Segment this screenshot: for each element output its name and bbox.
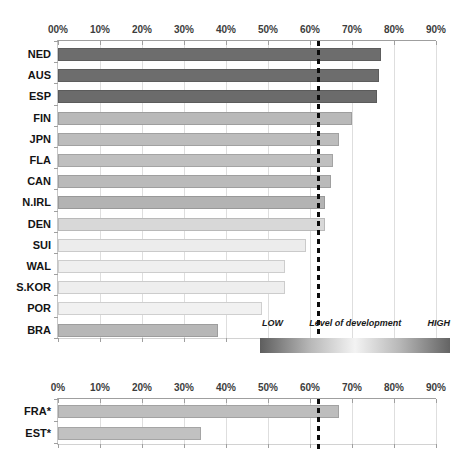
average-reference-line [317,399,320,449]
x-axis-tick-label: 40% [209,382,243,393]
axis-tick [394,41,395,45]
x-axis-tick-label: 30% [167,382,201,393]
axis-tick [100,338,101,342]
bar [58,48,381,61]
category-label: FRA* [1,405,51,418]
axis-tick [226,41,227,45]
main-chart-plot-area: 00%10%20%30%40%50%60%70%80%90%NEDAUSESPF… [57,40,436,339]
axis-tick [142,399,143,403]
x-axis-tick-label: 60% [293,24,327,35]
axis-tick [352,444,353,448]
x-axis-tick-label: 90% [419,382,453,393]
axis-tick [58,399,59,403]
bar [58,69,379,82]
axis-tick [58,41,59,45]
gridline [352,41,353,338]
legend-labels: LOW Level of development HIGH [262,316,450,329]
axis-tick [352,399,353,403]
axis-tick [54,421,58,422]
footnote-chart-plot-area: 0%10%20%30%40%50%60%70%80%90%FRA*EST* [57,398,436,445]
x-axis-tick-label: 00% [41,24,75,35]
gridline [310,41,311,338]
x-axis-tick-label: 20% [125,382,159,393]
category-label: FLA [1,154,51,167]
bar [58,281,285,294]
axis-tick [54,147,58,148]
bar [58,405,339,418]
axis-tick [436,444,437,448]
axis-tick [268,399,269,403]
gridline [436,41,437,338]
axis-tick [394,399,395,403]
gridline [394,41,395,338]
axis-tick [54,211,58,212]
axis-tick [100,41,101,45]
gridline [436,399,437,444]
axis-tick [436,41,437,45]
bar [58,196,325,209]
gridline [394,399,395,444]
bar [58,112,352,125]
x-axis-tick-label: 70% [335,24,369,35]
axis-tick [184,444,185,448]
x-axis-tick-label: 20% [125,24,159,35]
x-axis-tick-label: 50% [251,24,285,35]
x-axis-tick-label: 80% [377,382,411,393]
x-axis-tick-label: 10% [83,24,117,35]
axis-tick [142,444,143,448]
category-label: JPN [1,133,51,146]
gridline [352,399,353,444]
axis-tick [54,274,58,275]
category-label: S.KOR [1,281,51,294]
legend-title: Level of development [309,318,401,328]
bar [58,302,262,315]
x-axis-tick-label: 30% [167,24,201,35]
category-label: FIN [1,112,51,125]
axis-tick [226,338,227,342]
development-level-bar-chart: 00%10%20%30%40%50%60%70%80%90%NEDAUSESPF… [0,0,466,450]
axis-tick [54,126,58,127]
bar [58,324,218,337]
axis-tick [54,253,58,254]
category-label: DEN [1,218,51,231]
legend-low-label: LOW [262,318,283,328]
axis-tick [100,444,101,448]
average-reference-line [317,41,320,339]
axis-tick [394,444,395,448]
axis-tick [54,317,58,318]
axis-tick [310,399,311,403]
axis-tick [54,168,58,169]
axis-tick [226,444,227,448]
axis-tick [54,105,58,106]
bar [58,427,201,440]
category-label: BRA [1,324,51,337]
x-axis-tick-label: 60% [293,382,327,393]
axis-tick [54,62,58,63]
axis-tick [58,444,59,448]
category-label: NED [1,48,51,61]
x-axis-tick-label: 10% [83,382,117,393]
axis-tick [436,399,437,403]
legend-high-label: HIGH [428,318,451,328]
x-axis-tick-label: 0% [41,382,75,393]
axis-tick [352,41,353,45]
axis-tick [54,189,58,190]
bar [58,239,306,252]
category-label: CAN [1,175,51,188]
axis-tick [184,338,185,342]
axis-tick [54,41,58,42]
x-axis-tick-label: 40% [209,24,243,35]
axis-tick [54,295,58,296]
x-axis-tick-label: 80% [377,24,411,35]
axis-tick [54,232,58,233]
category-label: ESP [1,90,51,103]
axis-tick [184,41,185,45]
bar [58,154,333,167]
bar [58,260,285,273]
axis-tick [142,41,143,45]
axis-tick [226,399,227,403]
category-label: WAL [1,260,51,273]
category-label: N.IRL [1,196,51,209]
axis-tick [100,399,101,403]
bar [58,218,325,231]
